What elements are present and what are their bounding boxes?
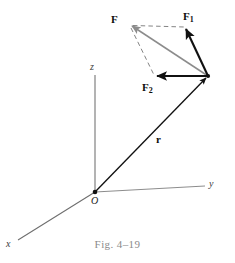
coordinate-axes	[18, 75, 205, 240]
figure-caption-text: Fig. 4–19	[95, 238, 141, 250]
position-vector-r-arrow	[95, 78, 206, 192]
y-axis-line	[95, 186, 205, 192]
x-axis-line	[18, 192, 95, 240]
dashed-line-top	[133, 26, 184, 28]
force-one-label-subscript: 1	[190, 15, 194, 24]
position-vector-label: r	[156, 134, 161, 145]
y-axis-label: y	[209, 179, 213, 189]
force-two-label-subscript: 2	[149, 86, 153, 95]
z-axis-label: z	[90, 62, 94, 72]
figure-caption: Fig. 4–19	[0, 238, 235, 250]
force-application-point-dot	[206, 74, 210, 78]
origin-label: O	[91, 196, 98, 206]
parallelogram-dashed-lines	[131, 26, 184, 76]
figure-container: F F1 F2 r z y x O Fig. 4–19	[0, 0, 235, 263]
origin-label-text: O	[91, 195, 98, 206]
origin-point-dot	[93, 190, 98, 195]
force-resultant-label-text: F	[111, 13, 118, 25]
force-resultant-label: F	[111, 14, 118, 25]
vector-diagram-svg	[0, 0, 235, 263]
z-axis-label-text: z	[90, 61, 94, 72]
force-two-label: F2	[142, 82, 153, 95]
position-vector-label-text: r	[156, 133, 161, 145]
force-one-label: F1	[183, 11, 194, 24]
force-one-label-base: F	[183, 10, 190, 22]
y-axis-label-text: y	[209, 178, 213, 189]
force-two-label-base: F	[142, 81, 149, 93]
dashed-line-lower	[131, 28, 154, 75]
